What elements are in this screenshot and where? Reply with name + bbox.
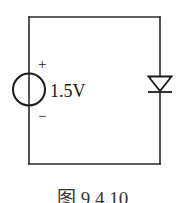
- diode-icon: [148, 77, 172, 93]
- circuit-wires: [29, 17, 160, 164]
- source-minus-label: −: [38, 109, 46, 124]
- circuit-figure: + 1.5V − 图 9.4.10: [0, 0, 185, 203]
- diode-triangle: [149, 77, 172, 92]
- figure-caption: 图 9.4.10: [0, 189, 185, 203]
- source-plus-label: +: [38, 57, 46, 72]
- circuit-diagram: [0, 0, 185, 203]
- source-value-label: 1.5V: [50, 82, 86, 100]
